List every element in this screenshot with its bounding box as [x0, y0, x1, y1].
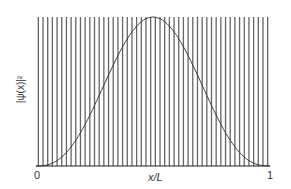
x-tick-1: 1 — [267, 169, 273, 181]
x-tick-0: 0 — [34, 169, 40, 181]
x-axis-label: x/L — [148, 171, 163, 183]
plot-area — [0, 0, 291, 189]
y-axis-label: |ψ(x)|² — [15, 76, 26, 103]
oscillation-lines — [38, 17, 267, 166]
